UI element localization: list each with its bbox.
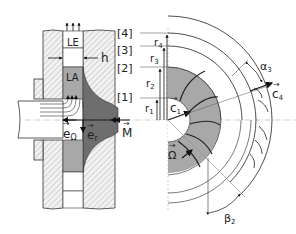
label-LE: LE (67, 37, 79, 48)
label-c4: c4 (272, 87, 284, 102)
label-LA: LA (66, 72, 79, 83)
inlet-pipe (18, 101, 63, 138)
inlet-flange-upper (34, 79, 43, 99)
c4-vector (250, 83, 272, 91)
svg-text:→: → (171, 94, 178, 103)
flow-arrowheads-lower (66, 95, 78, 99)
label-omega: Ω (168, 149, 176, 162)
svg-text:→: → (123, 119, 130, 128)
label-r1: r1 (145, 103, 154, 116)
label-beta2: β2 (224, 212, 236, 226)
outlet-flow-arrows (67, 23, 79, 31)
pump-diagram: LE LA h [4] [3] [2] [1] eΩ → er → M → r4… (0, 0, 296, 234)
label-station-1: [1] (117, 91, 133, 104)
svg-text:→: → (63, 119, 70, 128)
inlet-flange-lower (34, 140, 43, 160)
label-station-2: [2] (117, 62, 133, 75)
label-alpha3: α3 (260, 60, 272, 74)
svg-text:→: → (273, 80, 280, 89)
label-r3: r3 (150, 53, 159, 66)
svg-text:→: → (87, 121, 94, 130)
casing-left-upper (43, 30, 63, 99)
label-h: h (101, 51, 109, 65)
label-station-3: [3] (117, 44, 133, 57)
label-r4: r4 (154, 37, 163, 50)
label-M: M (122, 126, 132, 140)
svg-text:→: → (169, 141, 176, 150)
casing-left-lower (43, 140, 63, 209)
beta2-arc (209, 194, 240, 213)
label-r2: r2 (146, 78, 155, 91)
front-view (157, 16, 272, 215)
diagram-canvas: LE LA h [4] [3] [2] [1] eΩ → er → M → r4… (0, 0, 296, 234)
label-e-omega: eΩ (63, 127, 77, 142)
label-station-4: [4] (117, 27, 133, 40)
